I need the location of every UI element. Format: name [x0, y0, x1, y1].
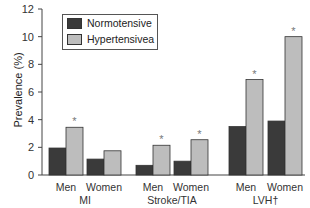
bar-normotensive	[268, 121, 285, 175]
bar-normotensive	[136, 165, 153, 175]
x-tick-label: Women	[173, 181, 209, 193]
legend-item-normotensive: Normotensive	[63, 15, 157, 31]
legend-label: Hypertensivea	[87, 33, 154, 45]
bar-hypertensivea	[153, 145, 170, 175]
x-tick-label: Men	[56, 181, 77, 193]
bar-hypertensivea	[246, 80, 263, 175]
x-tick-label: Men	[236, 181, 257, 193]
legend-swatch-hypertensive	[67, 34, 82, 45]
y-axis-label: Prevalence (%)	[12, 50, 24, 130]
bar-normotensive	[229, 127, 246, 175]
significance-marker: *	[291, 25, 296, 37]
bar-hypertensivea	[66, 127, 83, 175]
bar-normotensive	[87, 159, 104, 175]
x-tick-label: Women	[267, 181, 303, 193]
legend-swatch-normotensive	[67, 18, 82, 29]
significance-marker: *	[197, 128, 202, 140]
y-tick-label: 2	[28, 141, 34, 153]
group-label: LVH†	[253, 194, 279, 206]
legend-label: Normotensive	[87, 17, 152, 29]
group-label: Stroke/TIA	[147, 194, 197, 206]
y-tick-label: 6	[28, 86, 34, 98]
group-label: MI	[79, 194, 91, 206]
y-tick-label: 0	[28, 169, 34, 181]
x-axis-labels: MenWomenMIMenWomenStroke/TIAMenWomenLVH†	[56, 181, 303, 206]
bar-hypertensivea	[191, 140, 208, 175]
significance-marker: *	[252, 68, 257, 80]
significance-marker: *	[72, 115, 77, 127]
y-tick-label: 4	[28, 114, 34, 126]
x-tick-label: Men	[143, 181, 164, 193]
bar-normotensive	[49, 148, 66, 175]
bar-hypertensivea	[104, 151, 121, 175]
y-tick-label: 8	[28, 58, 34, 70]
legend: Normotensive Hypertensivea	[62, 14, 158, 50]
y-tick-label: 12	[22, 3, 34, 15]
bar-hypertensivea	[285, 37, 302, 175]
significance-marker: *	[159, 133, 164, 145]
bar-normotensive	[174, 161, 191, 175]
y-tick-label: 10	[22, 31, 34, 43]
x-tick-label: Women	[86, 181, 122, 193]
legend-item-hypertensive: Hypertensivea	[63, 31, 157, 47]
